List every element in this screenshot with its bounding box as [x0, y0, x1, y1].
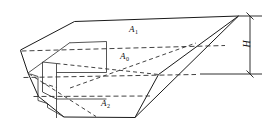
- inner-stepped-block: [28, 42, 107, 119]
- label-area-middle: A0: [120, 52, 129, 61]
- right-end-wall: [135, 16, 239, 118]
- label-area-top: A1: [129, 25, 138, 34]
- hidden-left-diagonal: [29, 74, 97, 117]
- inner-top-left-edge: [28, 43, 70, 74]
- inner-front-bottom-edge: [43, 92, 57, 99]
- bottom-floor-outline: [28, 73, 135, 118]
- hidden-apex-diagonal: [70, 43, 196, 88]
- right-wall-lower-edge: [135, 16, 239, 118]
- hidden-a0-level-line: [24, 75, 197, 78]
- top-left-edge: [21, 22, 75, 51]
- figure-drawing: [0, 0, 266, 134]
- left-outer-wall-edge: [21, 50, 29, 73]
- bottom-front-edge: [64, 117, 135, 118]
- top-back-edge: [75, 16, 239, 22]
- inner-step-to-floor: [48, 108, 65, 118]
- technical-figure: A1 A0 A2 H: [0, 0, 266, 134]
- inner-top-ridge: [70, 42, 107, 43]
- inner-front-top-edge: [43, 62, 57, 64]
- label-height-dimension: H: [242, 40, 252, 47]
- label-area-bottom: A2: [101, 99, 110, 108]
- right-wall-upper-edge: [159, 16, 239, 75]
- hidden-a2-level-line: [34, 96, 151, 97]
- bottom-left-front-edge: [39, 97, 65, 118]
